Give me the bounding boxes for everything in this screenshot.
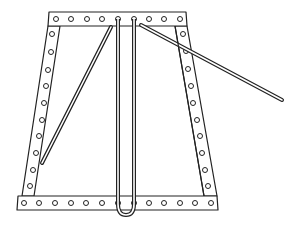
frame-diagram: [0, 0, 294, 229]
vertical-rods: [118, 19, 134, 204]
right-strut: [175, 26, 217, 196]
left-strut: [22, 26, 60, 196]
frame-drawing: [0, 0, 294, 229]
long-rod: [141, 25, 282, 100]
